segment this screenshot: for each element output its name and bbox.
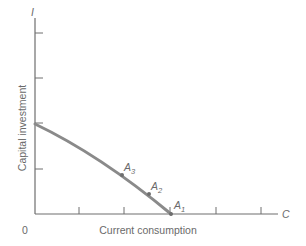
y-ticks bbox=[35, 33, 43, 169]
point-a1 bbox=[169, 212, 173, 216]
origin-label: 0 bbox=[22, 224, 28, 236]
label-a2: A2 bbox=[150, 180, 163, 195]
label-a3: A3 bbox=[123, 161, 136, 176]
y-axis-title: Capital investment bbox=[16, 85, 28, 171]
x-axis-symbol: C bbox=[282, 208, 290, 220]
point-a2 bbox=[147, 192, 151, 196]
point-a3 bbox=[120, 173, 124, 177]
frontier-curve bbox=[35, 124, 171, 214]
x-axis-title: Current consumption bbox=[99, 224, 197, 236]
y-axis-symbol: I bbox=[31, 6, 34, 18]
label-a1: A1 bbox=[173, 199, 185, 214]
chart: A1 A2 A3 I C 0 Current consumption Capit… bbox=[0, 0, 306, 246]
